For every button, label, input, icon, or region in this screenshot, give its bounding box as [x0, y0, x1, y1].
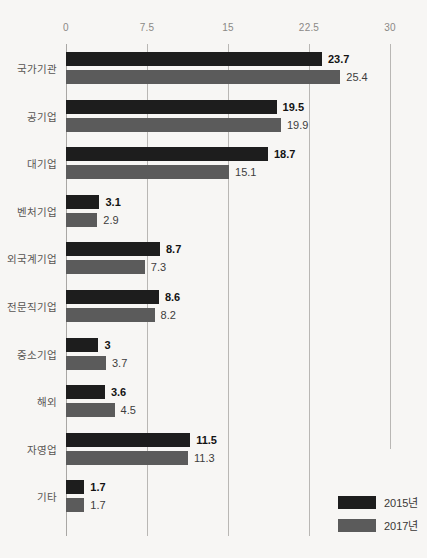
bar-2017년[interactable]: 19.9: [66, 118, 281, 132]
bar-value-label: 3.1: [105, 196, 120, 208]
category-label: 기타: [37, 489, 57, 504]
bar-2017년[interactable]: 4.5: [66, 403, 115, 417]
bar-value-label: 3: [104, 339, 110, 351]
plot-area: 07.51522.530 국가기관23.725.4공기업19.519.9대기업1…: [66, 44, 390, 536]
bar-group: 전문직기업8.68.2: [66, 290, 390, 322]
bar-2015년[interactable]: 3.6: [66, 385, 105, 399]
bar-group: 외국계기업8.77.3: [66, 242, 390, 274]
x-tick-label: 22.5: [299, 22, 319, 33]
bar-2015년[interactable]: 3: [66, 338, 98, 352]
bar-value-label: 3.7: [112, 357, 127, 369]
bar-2017년[interactable]: 1.7: [66, 498, 84, 512]
bar-group: 중소기업33.7: [66, 338, 390, 370]
bar-group: 자영업11.511.3: [66, 433, 390, 465]
x-tick-label: 30: [384, 22, 396, 33]
legend-item[interactable]: 2017년: [338, 517, 418, 533]
bar-2017년[interactable]: 8.2: [66, 308, 155, 322]
category-label: 중소기업: [17, 346, 57, 361]
bar-value-label: 1.7: [90, 481, 105, 493]
bar-2017년[interactable]: 11.3: [66, 451, 188, 465]
bar-value-label: 2.9: [103, 214, 118, 226]
bar-value-label: 8.6: [165, 291, 180, 303]
category-label: 벤처기업: [17, 203, 57, 218]
bar-2015년[interactable]: 11.5: [66, 433, 190, 447]
bar-2017년[interactable]: 7.3: [66, 260, 145, 274]
category-label: 해외: [37, 394, 57, 409]
bar-value-label: 3.6: [111, 386, 126, 398]
bar-2015년[interactable]: 8.6: [66, 290, 159, 304]
legend: 2015년 2017년: [338, 494, 418, 533]
bar-group: 공기업19.519.9: [66, 100, 390, 132]
legend-item[interactable]: 2015년: [338, 494, 418, 510]
bar-group: 대기업18.715.1: [66, 147, 390, 179]
legend-swatch-2017: [338, 519, 376, 532]
bar-2017년[interactable]: 3.7: [66, 356, 106, 370]
category-label: 국가기관: [17, 61, 57, 76]
bar-value-label: 1.7: [90, 499, 105, 511]
bar-group: 국가기관23.725.4: [66, 52, 390, 84]
bar-value-label: 18.7: [274, 148, 295, 160]
bar-value-label: 25.4: [346, 71, 367, 83]
category-label: 대기업: [27, 156, 57, 171]
x-tick-label: 7.5: [140, 22, 155, 33]
legend-label-2015: 2015년: [384, 494, 418, 510]
bar-2015년[interactable]: 8.7: [66, 242, 160, 256]
bar-2017년[interactable]: 2.9: [66, 213, 97, 227]
bar-group: 벤처기업3.12.9: [66, 195, 390, 227]
bar-2015년[interactable]: 23.7: [66, 52, 322, 66]
legend-swatch-2015: [338, 496, 376, 509]
bar-2017년[interactable]: 15.1: [66, 165, 229, 179]
bar-2015년[interactable]: 1.7: [66, 480, 84, 494]
bar-value-label: 19.9: [287, 119, 308, 131]
gridline-30: [390, 44, 391, 449]
bar-value-label: 19.5: [283, 101, 304, 113]
bar-group: 해외3.64.5: [66, 385, 390, 417]
bar-value-label: 8.7: [166, 243, 181, 255]
bar-2015년[interactable]: 19.5: [66, 100, 277, 114]
legend-label-2017: 2017년: [384, 517, 418, 533]
bar-value-label: 7.3: [151, 261, 166, 273]
category-label: 자영업: [27, 441, 57, 456]
x-tick-label: 0: [63, 22, 69, 33]
bar-value-label: 8.2: [161, 309, 176, 321]
bar-value-label: 15.1: [235, 166, 256, 178]
category-label: 공기업: [27, 108, 57, 123]
x-tick-label: 15: [222, 22, 234, 33]
bar-value-label: 4.5: [121, 404, 136, 416]
bar-2015년[interactable]: 18.7: [66, 147, 268, 161]
bar-2015년[interactable]: 3.1: [66, 195, 99, 209]
bar-value-label: 23.7: [328, 53, 349, 65]
category-label: 외국계기업: [7, 251, 57, 266]
bar-2017년[interactable]: 25.4: [66, 70, 340, 84]
category-label: 전문직기업: [7, 299, 57, 314]
bar-value-label: 11.5: [196, 434, 217, 446]
bar-chart: 07.51522.530 국가기관23.725.4공기업19.519.9대기업1…: [0, 0, 427, 558]
bar-value-label: 11.3: [194, 452, 215, 464]
